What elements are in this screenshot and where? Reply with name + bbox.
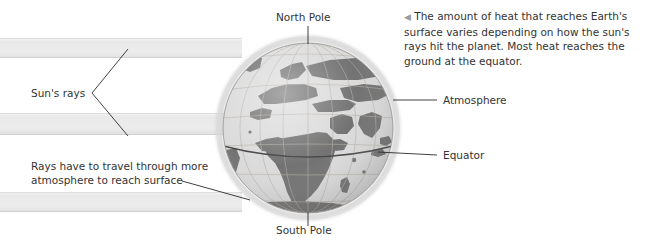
left-triangle-marker-icon: ◀: [404, 12, 411, 22]
caption-text: The amount of heat that reaches Earth's …: [404, 10, 630, 67]
earth-sun-rays-diagram: North Pole South Pole Sun's rays Atmosph…: [0, 0, 652, 241]
rays-travel-label-line2: atmosphere to reach surface: [31, 174, 183, 187]
atmosphere-label: Atmosphere: [443, 94, 507, 107]
upper-ray-band: [0, 38, 242, 58]
equator-label: Equator: [443, 149, 484, 162]
south-pole-label: South Pole: [276, 224, 332, 237]
middle-ray-band: [0, 113, 242, 135]
globe-shading: [223, 43, 393, 213]
caption-block: ◀ The amount of heat that reaches Earth'…: [404, 9, 644, 68]
rays-travel-label-line1: Rays have to travel through more: [31, 160, 208, 173]
north-pole-label: North Pole: [276, 11, 330, 24]
lower-ray-band: [0, 192, 242, 212]
suns-rays-label: Sun's rays: [31, 87, 85, 100]
